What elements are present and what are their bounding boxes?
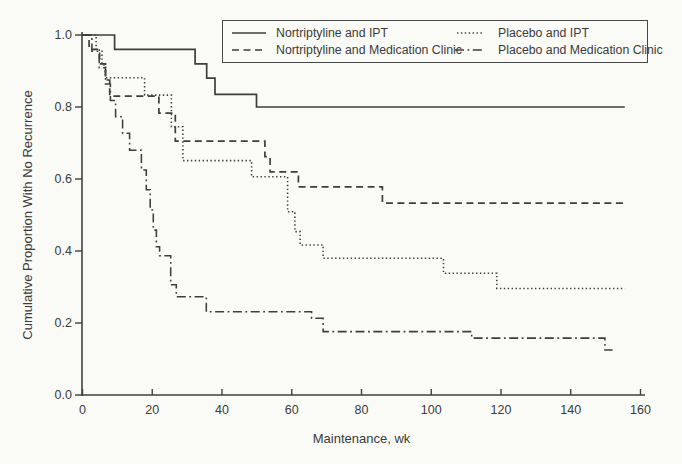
dashed-line-swatch-icon bbox=[231, 44, 267, 56]
x-tick-label: 100 bbox=[421, 403, 442, 417]
legend-item-nortriptyline-ipt: Nortriptyline and IPT bbox=[231, 24, 453, 42]
series-path-3 bbox=[83, 35, 613, 350]
legend-label: Nortriptyline and Medication Clinic bbox=[276, 43, 462, 57]
survival-figure: 0.00.20.40.60.81.0020406080100120140160 … bbox=[0, 0, 682, 464]
x-axis-title: Maintenance, wk bbox=[82, 431, 641, 446]
x-tick-label: 160 bbox=[630, 403, 651, 417]
legend-item-placebo-medication-clinic: Placebo and Medication Clinic bbox=[453, 42, 663, 60]
legend-item-nortriptyline-medication-clinic: Nortriptyline and Medication Clinic bbox=[231, 42, 453, 60]
y-tick-label: 0.4 bbox=[55, 244, 72, 258]
legend-label: Nortriptyline and IPT bbox=[276, 26, 388, 40]
dash-dot-line-swatch-icon bbox=[453, 44, 489, 56]
dotted-line-swatch-icon bbox=[453, 27, 489, 39]
y-tick-label: 1.0 bbox=[55, 28, 72, 42]
x-tick-label: 20 bbox=[145, 403, 159, 417]
solid-line-swatch-icon bbox=[231, 27, 267, 39]
x-tick-label: 80 bbox=[355, 403, 369, 417]
km-plot: 0.00.20.40.60.81.0020406080100120140160 bbox=[0, 0, 682, 464]
x-tick-label: 40 bbox=[215, 403, 229, 417]
x-tick-label: 60 bbox=[285, 403, 299, 417]
legend-label: Placebo and Medication Clinic bbox=[498, 43, 663, 57]
legend-item-placebo-ipt: Placebo and IPT bbox=[453, 24, 663, 42]
y-tick-label: 0.8 bbox=[55, 100, 72, 114]
y-tick-label: 0.2 bbox=[55, 316, 72, 330]
y-axis-title: Cumulative Proportion With No Recurrence bbox=[20, 90, 35, 339]
series-path-2 bbox=[83, 35, 625, 288]
x-tick-label: 120 bbox=[491, 403, 512, 417]
y-tick-label: 0.6 bbox=[55, 172, 72, 186]
legend-label: Placebo and IPT bbox=[498, 26, 589, 40]
x-tick-label: 0 bbox=[79, 403, 86, 417]
legend-box: Nortriptyline and IPT Placebo and IPT No… bbox=[222, 20, 648, 63]
x-tick-label: 140 bbox=[560, 403, 581, 417]
y-tick-label: 0.0 bbox=[55, 388, 72, 402]
